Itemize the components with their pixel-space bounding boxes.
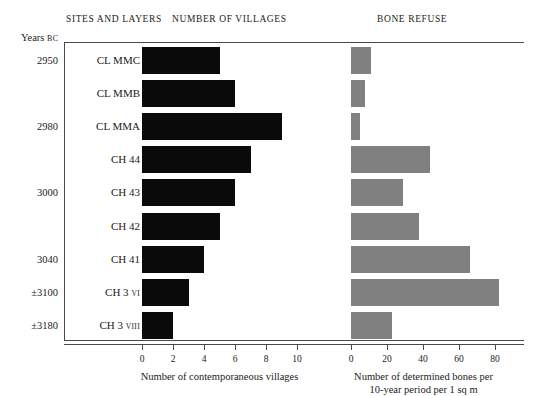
year-label: 2980 xyxy=(0,110,58,143)
site-layer-label: CH 42 xyxy=(76,210,140,243)
villages-axis-tick-label: 6 xyxy=(220,354,250,364)
site-layer-label: CH 3 VIII xyxy=(76,309,140,343)
bones-axis-caption-line1: Number of determined bones per xyxy=(316,370,531,383)
chart-row: 2950CL MMC xyxy=(0,44,535,77)
bar-bone-refuse xyxy=(351,113,360,140)
bar-villages xyxy=(142,246,204,273)
villages-axis-tick-label: 2 xyxy=(158,354,188,364)
bar-bone-refuse xyxy=(351,213,419,240)
bones-axis-tick xyxy=(423,345,424,350)
chart-row: CH 42 xyxy=(0,210,535,243)
bar-bone-refuse xyxy=(351,47,371,74)
year-label: 2950 xyxy=(0,44,58,77)
bar-villages xyxy=(142,312,173,339)
bones-axis-tick xyxy=(459,345,460,350)
site-layer-label: CL MMA xyxy=(76,110,140,143)
site-layer-label: CH 44 xyxy=(76,143,140,176)
bones-axis-tick-label: 40 xyxy=(408,354,438,364)
bar-villages xyxy=(142,47,220,74)
bar-villages xyxy=(142,80,235,107)
bar-villages xyxy=(142,113,282,140)
x-axis-line xyxy=(64,344,524,345)
chart-row: CL MMB xyxy=(0,77,535,110)
chart-row: 2980CL MMA xyxy=(0,110,535,143)
villages-axis-tick-label: 10 xyxy=(282,354,312,364)
bones-axis-tick-label: 20 xyxy=(372,354,402,364)
villages-axis-tick xyxy=(235,345,236,350)
chart-root: Sites and Layers Number of Villages Bone… xyxy=(0,0,535,396)
bones-axis-tick-label: 80 xyxy=(480,354,510,364)
chart-row: ±3100CH 3 VI xyxy=(0,276,535,309)
villages-axis-tick-label: 0 xyxy=(127,354,157,364)
bones-axis-tick-label: 0 xyxy=(336,354,366,364)
bones-axis-caption-line2: 10-year period per 1 sq m xyxy=(316,383,531,396)
chart-row: 3040CH 41 xyxy=(0,243,535,276)
bones-axis-caption: Number of determined bones per10-year pe… xyxy=(316,370,531,396)
bar-bone-refuse xyxy=(351,179,403,206)
bar-bone-refuse xyxy=(351,146,430,173)
chart-row: CH 44 xyxy=(0,143,535,176)
villages-axis-tick xyxy=(297,345,298,350)
year-label: 3000 xyxy=(0,176,58,209)
column-header-number-of-villages: Number of Villages xyxy=(172,14,287,24)
villages-axis-tick xyxy=(142,345,143,350)
bar-villages xyxy=(142,179,235,206)
bar-bone-refuse xyxy=(351,279,499,306)
bar-bone-refuse xyxy=(351,312,392,339)
column-header-bone-refuse: Bone Refuse xyxy=(377,14,447,24)
bar-villages xyxy=(142,213,220,240)
bar-bone-refuse xyxy=(351,80,365,107)
villages-axis-tick-label: 4 xyxy=(189,354,219,364)
bar-bone-refuse xyxy=(351,246,470,273)
year-label: 3040 xyxy=(0,243,58,276)
site-layer-label: CL MMB xyxy=(76,77,140,110)
year-label: ±3180 xyxy=(0,309,58,342)
bones-axis-tick-label: 60 xyxy=(444,354,474,364)
site-layer-label: CH 3 VI xyxy=(76,276,140,310)
bones-axis-tick xyxy=(351,345,352,350)
column-header-sites-and-layers: Sites and Layers xyxy=(66,14,162,24)
bar-villages xyxy=(142,146,251,173)
bones-axis-tick xyxy=(495,345,496,350)
villages-axis-tick-label: 8 xyxy=(251,354,281,364)
site-layer-label: CH 41 xyxy=(76,243,140,276)
year-label: ±3100 xyxy=(0,276,58,309)
chart-row: 3000CH 43 xyxy=(0,176,535,209)
bones-axis-tick xyxy=(387,345,388,350)
chart-row: ±3180CH 3 VIII xyxy=(0,309,535,342)
villages-axis-tick xyxy=(204,345,205,350)
years-axis-label: Years BC xyxy=(21,32,59,43)
site-layer-label: CL MMC xyxy=(76,44,140,77)
villages-axis-tick xyxy=(173,345,174,350)
bar-villages xyxy=(142,279,189,306)
site-layer-label: CH 43 xyxy=(76,176,140,209)
villages-axis-tick xyxy=(266,345,267,350)
